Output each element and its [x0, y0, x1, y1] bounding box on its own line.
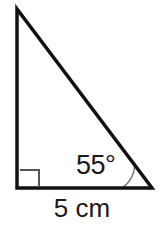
angle-label: 55°: [76, 152, 115, 179]
angle-arc-icon: [122, 164, 135, 189]
base-length-label: 5 cm: [0, 195, 164, 221]
right-triangle-figure: 55° 5 cm: [0, 0, 164, 227]
right-angle-marker-icon: [20, 170, 39, 186]
